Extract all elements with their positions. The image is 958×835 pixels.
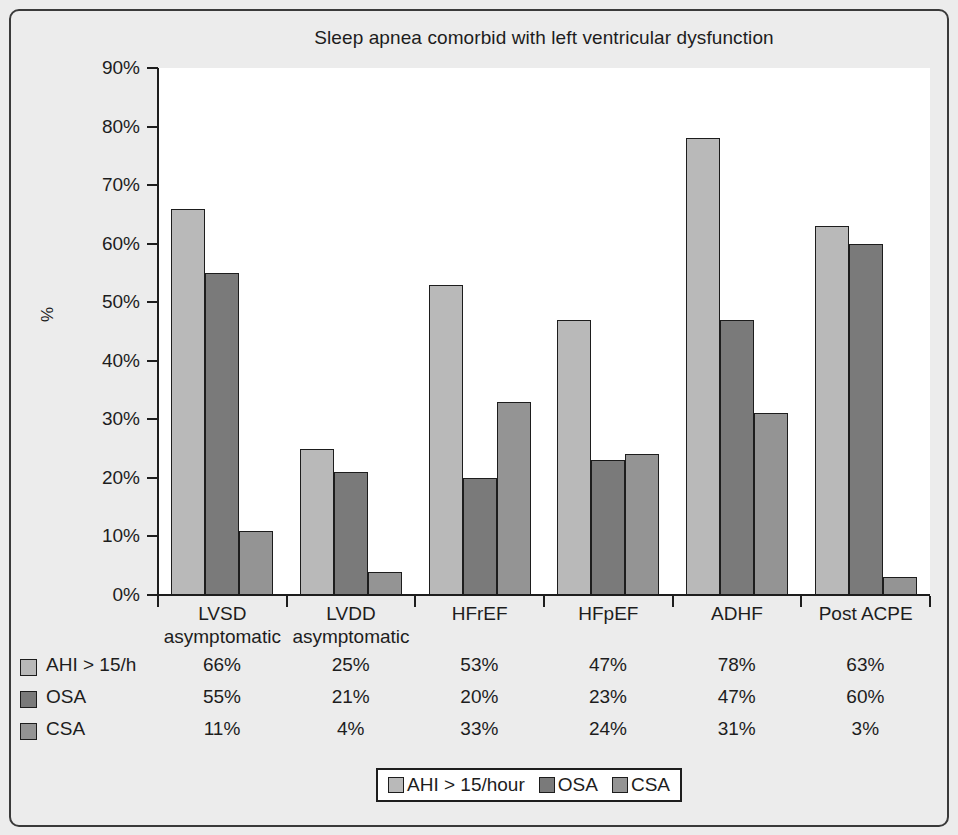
table-row: OSA55%21%20%23%47%60% xyxy=(20,684,938,716)
bar xyxy=(686,138,720,595)
y-axis-line xyxy=(157,68,159,596)
table-cell: 47% xyxy=(544,654,672,676)
table-row-label: CSA xyxy=(46,718,85,740)
category-label-line: LVDD xyxy=(287,602,416,625)
y-axis-tick xyxy=(147,301,158,303)
bar xyxy=(883,577,917,595)
data-table: AHI > 15/h66%25%53%47%78%63%OSA55%21%20%… xyxy=(20,652,938,748)
bar xyxy=(815,226,849,595)
table-cell: 4% xyxy=(287,718,415,740)
series-swatch-icon xyxy=(20,723,37,740)
category-label-line: HFpEF xyxy=(544,602,673,625)
table-cell: 55% xyxy=(158,686,286,708)
table-row-label: AHI > 15/h xyxy=(46,654,136,676)
table-cell: 60% xyxy=(801,686,929,708)
table-cell: 33% xyxy=(415,718,543,740)
bar xyxy=(463,478,497,595)
y-axis-title: % xyxy=(38,307,58,322)
table-cell: 25% xyxy=(287,654,415,676)
plot-area xyxy=(158,68,930,595)
y-axis-tick-label: 30% xyxy=(68,408,140,430)
x-axis-category-label: Post ACPE xyxy=(801,602,930,625)
category-label-line: LVSD xyxy=(158,602,287,625)
table-cell: 3% xyxy=(801,718,929,740)
y-axis-tick-label: 90% xyxy=(68,57,140,79)
legend-item: AHI > 15/hour xyxy=(388,774,525,796)
y-axis-tick xyxy=(147,67,158,69)
y-axis-tick-label: 70% xyxy=(68,174,140,196)
table-cell: 78% xyxy=(673,654,801,676)
bar xyxy=(300,449,334,595)
table-cell: 24% xyxy=(544,718,672,740)
y-axis-tick xyxy=(147,360,158,362)
legend-swatch-icon xyxy=(388,777,404,793)
table-cell: 47% xyxy=(673,686,801,708)
category-label-line: HFrEF xyxy=(415,602,544,625)
bar xyxy=(429,285,463,595)
x-axis-category-label: ADHF xyxy=(673,602,802,625)
y-axis-tick-label: 50% xyxy=(68,291,140,313)
table-row: CSA11%4%33%24%31%3% xyxy=(20,716,938,748)
bar xyxy=(849,244,883,595)
legend-label: AHI > 15/hour xyxy=(407,774,525,796)
legend-item: OSA xyxy=(539,774,598,796)
table-cell: 20% xyxy=(415,686,543,708)
table-cell: 53% xyxy=(415,654,543,676)
bar xyxy=(239,531,273,595)
legend-swatch-icon xyxy=(612,777,628,793)
series-swatch-icon xyxy=(20,691,37,708)
y-axis-tick xyxy=(147,418,158,420)
y-axis-tick xyxy=(147,477,158,479)
legend-swatch-icon xyxy=(539,777,555,793)
legend-label: CSA xyxy=(631,774,670,796)
bar xyxy=(368,572,402,595)
chart-title: Sleep apnea comorbid with left ventricul… xyxy=(158,27,930,49)
y-axis-tick-label: 0% xyxy=(68,584,140,606)
table-row-label: OSA xyxy=(46,686,86,708)
y-axis-tick-label: 10% xyxy=(68,525,140,547)
x-axis-category-label: HFrEF xyxy=(415,602,544,625)
bar xyxy=(625,454,659,595)
table-row: AHI > 15/h66%25%53%47%78%63% xyxy=(20,652,938,684)
category-label-line: asymptomatic xyxy=(287,625,416,648)
table-cell: 63% xyxy=(801,654,929,676)
legend-item: CSA xyxy=(612,774,670,796)
y-axis-tick-label: 60% xyxy=(68,233,140,255)
y-axis-tick-label: 80% xyxy=(68,116,140,138)
table-cell: 66% xyxy=(158,654,286,676)
table-cell: 31% xyxy=(673,718,801,740)
bar xyxy=(754,413,788,595)
category-label-line: asymptomatic xyxy=(158,625,287,648)
table-cell: 23% xyxy=(544,686,672,708)
bar xyxy=(720,320,754,595)
bar xyxy=(497,402,531,595)
y-axis-tick-label: 40% xyxy=(68,350,140,372)
legend-label: OSA xyxy=(558,774,598,796)
x-axis-category-label: LVSDasymptomatic xyxy=(158,602,287,648)
y-axis-tick-label: 20% xyxy=(68,467,140,489)
x-axis-category-label: HFpEF xyxy=(544,602,673,625)
category-label-line: Post ACPE xyxy=(801,602,930,625)
series-swatch-icon xyxy=(20,659,37,676)
y-axis-tick xyxy=(147,126,158,128)
y-axis-tick xyxy=(147,535,158,537)
x-axis-category-label: LVDDasymptomatic xyxy=(287,602,416,648)
bar xyxy=(557,320,591,595)
y-axis-tick xyxy=(147,184,158,186)
y-axis-tick xyxy=(147,243,158,245)
category-label-line: ADHF xyxy=(673,602,802,625)
chart-figure: Sleep apnea comorbid with left ventricul… xyxy=(0,0,958,835)
bar xyxy=(205,273,239,595)
bar xyxy=(171,209,205,595)
bar xyxy=(591,460,625,595)
chart-legend: AHI > 15/hourOSACSA xyxy=(376,768,682,802)
table-cell: 21% xyxy=(287,686,415,708)
table-cell: 11% xyxy=(158,718,286,740)
bar xyxy=(334,472,368,595)
